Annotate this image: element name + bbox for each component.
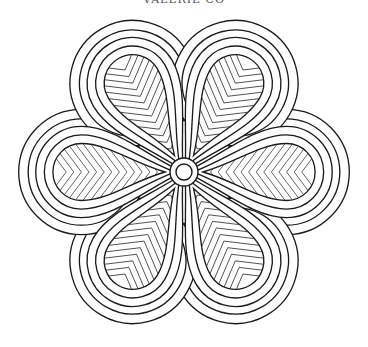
mandala-artwork <box>0 0 368 347</box>
center-rings <box>170 158 198 186</box>
mandala-group <box>19 0 350 347</box>
